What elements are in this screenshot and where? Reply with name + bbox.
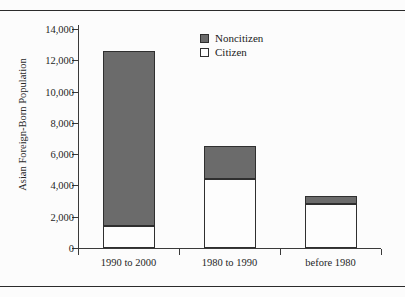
bar-segment-noncitizen <box>305 196 357 204</box>
bar-1980-to-1990 <box>204 146 256 248</box>
bar-segment-citizen <box>103 226 155 248</box>
y-axis-tick-label: 8,000 <box>50 117 74 128</box>
y-axis-tick-label: 2,000 <box>50 211 74 222</box>
x-axis-line <box>78 248 381 249</box>
bar-before-1980 <box>305 196 357 248</box>
y-axis-tick-label: 14,000 <box>45 24 74 35</box>
x-axis-category-label: 1990 to 2000 <box>78 257 179 268</box>
figure-page: Asian Foreign-Born Population Noncitizen… <box>0 0 405 297</box>
horizontal-rule-bottom <box>0 286 405 287</box>
y-axis-tick-label: 10,000 <box>45 86 74 97</box>
x-axis-tick <box>179 249 180 255</box>
chart-figure: Asian Foreign-Born Population Noncitizen… <box>0 11 405 286</box>
bar-segment-citizen <box>204 179 256 248</box>
bar-segment-noncitizen <box>204 146 256 180</box>
y-axis-tick-label: 0 <box>69 243 74 254</box>
x-axis-tick <box>381 249 382 255</box>
x-axis-category-label: before 1980 <box>280 257 381 268</box>
clipped-caption-text <box>46 0 196 4</box>
plot-area: 02,0004,0006,0008,00010,00012,00014,0001… <box>78 25 381 249</box>
bar-segment-citizen <box>305 204 357 248</box>
x-axis-category-label: 1980 to 1990 <box>179 257 280 268</box>
y-axis-tick-label: 12,000 <box>45 55 74 66</box>
y-axis-tick-label: 4,000 <box>50 180 74 191</box>
bar-segment-noncitizen <box>103 51 155 226</box>
y-axis-line <box>78 25 79 249</box>
x-axis-tick <box>78 249 79 255</box>
y-axis-tick-label: 6,000 <box>50 149 74 160</box>
y-axis-title: Asian Foreign-Born Population <box>17 15 28 235</box>
bar-1990-to-2000 <box>103 51 155 248</box>
x-axis-tick <box>280 249 281 255</box>
